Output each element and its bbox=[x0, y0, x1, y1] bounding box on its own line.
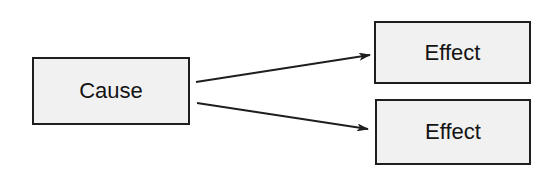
cause-label: Cause bbox=[79, 78, 143, 104]
effect-label-2: Effect bbox=[425, 119, 481, 145]
arrow-cause-to-effect-2 bbox=[197, 103, 368, 129]
arrow-cause-to-effect-1 bbox=[196, 55, 370, 82]
effect-box-1: Effect bbox=[374, 21, 531, 84]
cause-box: Cause bbox=[32, 57, 190, 125]
effect-box-2: Effect bbox=[375, 99, 531, 165]
effect-label-1: Effect bbox=[425, 40, 481, 66]
diagram-canvas: Cause Effect Effect bbox=[0, 0, 556, 178]
